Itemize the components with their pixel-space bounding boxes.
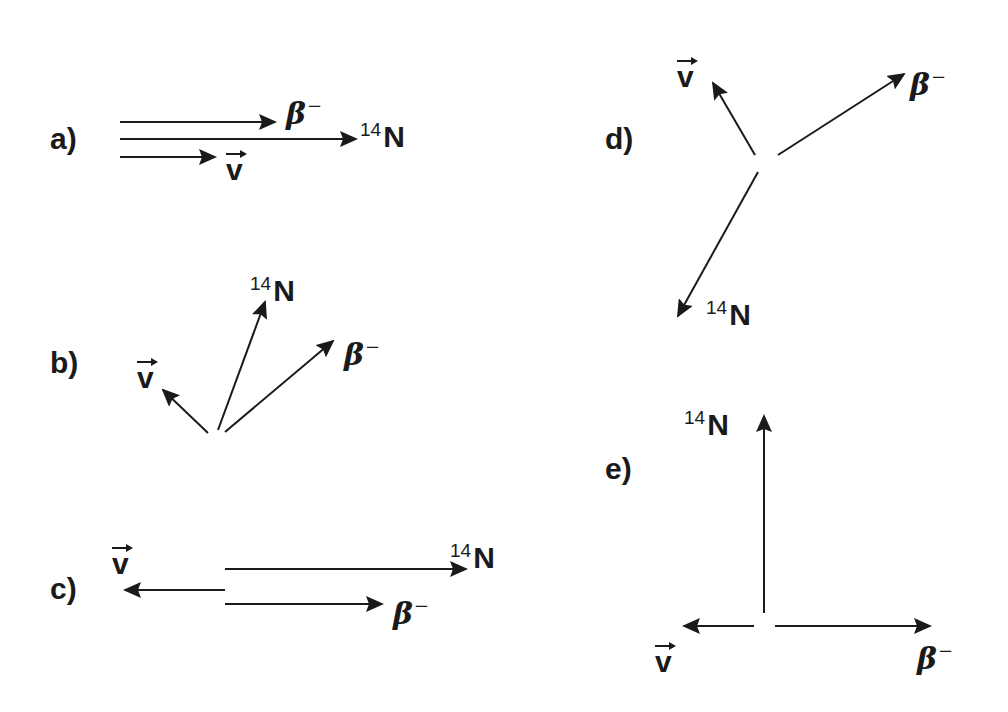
panel-label-d: d) (605, 124, 633, 154)
nitrogen-label-d: 14N (706, 300, 751, 330)
vector-arrow-icon (655, 641, 677, 651)
vector-arrow-icon (137, 357, 159, 367)
antineutrino-label-d: v (677, 62, 694, 92)
panel-label-c: c) (50, 574, 77, 604)
vector-b-antineutrino (163, 390, 208, 433)
vector-arrow-icon (677, 56, 699, 66)
panel-label-a: a) (50, 124, 77, 154)
panel-label-e: e) (605, 454, 632, 484)
panel-label-b: b) (50, 348, 78, 378)
diagram-canvas (0, 0, 1008, 712)
beta-label-c: β− (393, 599, 429, 629)
antineutrino-label-e: v (655, 647, 672, 677)
beta-label-b: β− (344, 340, 380, 370)
beta-label-d: β− (910, 70, 946, 100)
vector-d-beta_minus (778, 74, 904, 155)
vector-b-beta_minus (225, 341, 333, 432)
beta-symbol: β (286, 96, 306, 131)
antineutrino-label-c: v (112, 549, 129, 579)
nitrogen-mass: 14 (360, 119, 381, 140)
vector-b-N14 (218, 302, 265, 430)
vector-arrow-icon (112, 543, 134, 553)
beta-label-a: β− (286, 99, 322, 129)
nitrogen-label-b: 14N (250, 276, 295, 306)
vector-d-antineutrino (713, 83, 755, 155)
nitrogen-label-e: 14N (684, 410, 729, 440)
nitrogen-label-c: 14N (450, 543, 495, 573)
vector-d-N14 (678, 172, 758, 316)
nitrogen-label-a: 14N (360, 122, 405, 152)
beta-charge: − (307, 95, 322, 116)
nitrogen-symbol: N (383, 120, 405, 153)
beta-label-e: β− (917, 644, 953, 674)
antineutrino-label-a: v (226, 155, 243, 185)
vector-arrow-icon (226, 149, 248, 159)
antineutrino-label-b: v (137, 363, 154, 393)
